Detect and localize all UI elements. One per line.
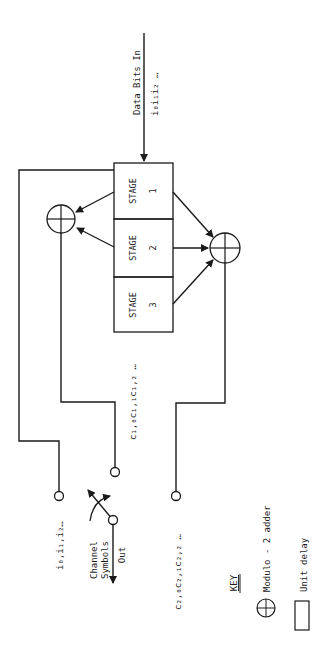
stage-3-label: STAGE — [128, 292, 138, 318]
stage-2-box — [114, 219, 173, 277]
switch-label-symbols: Symbols — [100, 541, 110, 579]
terminal-c2 — [172, 492, 181, 501]
stage-3-number: 3 — [148, 302, 158, 307]
tap-s1-to-adder1 — [76, 192, 114, 212]
stage-3-box — [114, 277, 173, 332]
tap-s1-to-adder2 — [173, 192, 213, 237]
tap-s3-to-adder2 — [173, 260, 213, 304]
c2-output-line — [176, 263, 225, 491]
stage-1-label: STAGE — [128, 178, 138, 204]
key-adder-label: Modulo - 2 adder — [262, 505, 272, 592]
shift-register — [114, 163, 173, 332]
tap-s2-to-adder1 — [77, 228, 114, 247]
switch-label-channel: Channel — [89, 541, 99, 579]
key-delay-label: Unit delay — [299, 537, 309, 592]
modulo2-adder-1 — [47, 205, 75, 233]
key-adder-icon — [257, 599, 275, 617]
stage-1-box — [114, 163, 173, 219]
stage-2-label: STAGE — [128, 235, 138, 261]
data-bits-in-label: Data Bits In — [132, 50, 142, 115]
stage-2-number: 2 — [148, 245, 158, 250]
terminal-systematic — [55, 492, 64, 501]
c2-sequence-label: c₂,₀c₂,₁c₂,₂ … — [173, 534, 183, 610]
key-delay-icon — [295, 601, 309, 630]
c1-output-line — [61, 233, 115, 467]
stage-1-number: 1 — [148, 188, 158, 193]
systematic-sequence-label: i₀,i₁,i₂… — [55, 521, 65, 570]
key-title: KEY — [229, 574, 239, 591]
modulo2-adder-2 — [210, 233, 240, 263]
encoder-diagram: Data Bits In i₀i₁i₂ … STAGE 1 STAGE 2 ST… — [0, 0, 325, 664]
input-sequence-label: i₀i₁i₂ … — [150, 72, 160, 116]
c1-sequence-label: c₁,₀c₁,₁c₁,₂ … — [128, 364, 138, 440]
terminal-c1 — [111, 468, 120, 477]
switch-label-out: Out — [117, 547, 127, 563]
systematic-output-line — [19, 170, 114, 491]
